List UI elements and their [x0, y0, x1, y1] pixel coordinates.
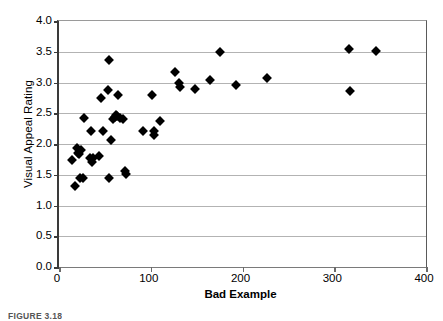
- data-point-marker: [138, 126, 148, 136]
- x-axis-tick-labels: 0100200300400: [57, 272, 424, 288]
- y-axis-tick-label: 2.0: [18, 137, 52, 149]
- data-point-marker: [345, 86, 355, 96]
- gridline: [59, 236, 426, 237]
- figure-caption: FIGURE 3.18: [8, 311, 62, 321]
- data-point-marker: [70, 181, 80, 191]
- y-axis-tick-mark: [54, 144, 59, 146]
- data-point-marker: [105, 55, 115, 65]
- x-axis-tick-label: 200: [231, 272, 250, 284]
- x-axis-tick-label: 300: [323, 272, 342, 284]
- data-point-marker: [215, 47, 225, 57]
- gridline: [59, 144, 426, 145]
- data-point-marker: [96, 93, 106, 103]
- x-axis-title: Bad Example: [57, 288, 424, 300]
- data-point-marker: [67, 155, 77, 165]
- gridline: [59, 52, 426, 53]
- y-axis-tick-label: 0.0: [18, 260, 52, 272]
- data-point-marker: [262, 73, 272, 83]
- x-axis-tick-label: 400: [414, 272, 433, 284]
- y-axis-tick-labels: 0.00.51.01.52.02.53.03.54.0: [18, 0, 52, 300]
- y-axis-tick-mark: [54, 83, 59, 85]
- y-axis-tick-label: 1.0: [18, 199, 52, 211]
- gridline: [59, 175, 426, 176]
- y-axis-tick-label: 2.5: [18, 106, 52, 118]
- scatter-chart-figure: Visual Appeal Rating 0.00.51.01.52.02.53…: [0, 0, 443, 300]
- data-point-marker: [155, 116, 165, 126]
- y-axis-tick-label: 3.0: [18, 76, 52, 88]
- y-axis-tick-mark: [54, 21, 59, 23]
- x-axis-tick-label: 0: [54, 272, 60, 284]
- data-point-marker: [147, 90, 157, 100]
- y-axis-tick-label: 3.5: [18, 45, 52, 57]
- y-axis-tick-mark: [54, 236, 59, 238]
- x-axis-tick-label: 100: [139, 272, 158, 284]
- y-axis-tick-label: 0.5: [18, 229, 52, 241]
- y-axis-tick-mark: [54, 52, 59, 54]
- y-axis-tick-mark: [54, 113, 59, 115]
- y-axis-tick-label: 4.0: [18, 14, 52, 26]
- data-point-marker: [103, 85, 113, 95]
- y-axis-tick-mark: [54, 206, 59, 208]
- data-point-marker: [170, 67, 180, 77]
- gridline: [59, 83, 426, 84]
- data-point-marker: [190, 84, 200, 94]
- data-point-marker: [371, 46, 381, 56]
- data-point-marker: [113, 90, 123, 100]
- gridline: [59, 206, 426, 207]
- figure-page: Visual Appeal Rating 0.00.51.01.52.02.53…: [0, 0, 443, 321]
- plot-area: [57, 20, 427, 268]
- data-point-marker: [86, 126, 96, 136]
- data-point-marker: [98, 126, 108, 136]
- y-axis-tick-mark: [54, 175, 59, 177]
- data-point-marker: [231, 80, 241, 90]
- y-axis-tick-label: 1.5: [18, 168, 52, 180]
